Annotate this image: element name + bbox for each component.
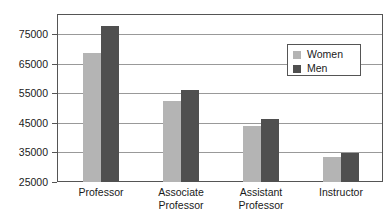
bar-women-assistant-professor (243, 126, 261, 182)
x-label-line2: Professor (239, 199, 284, 212)
legend-item-men: Men (293, 62, 360, 75)
bar-women-instructor (323, 157, 341, 182)
y-tick-label-65000: 65000 (19, 58, 48, 70)
y-tick-label-55000: 55000 (19, 87, 48, 99)
legend-label-women: Women (307, 49, 343, 60)
x-label-line1: Assistant (239, 186, 284, 199)
x-tick-label-instructor: Instructor (319, 186, 363, 199)
legend-item-women: Women (293, 48, 360, 61)
y-tick-label-75000: 75000 (19, 28, 48, 40)
legend-label-men: Men (307, 63, 327, 74)
legend-swatch-women-icon (293, 51, 301, 59)
bar-men-associate-professor (181, 90, 199, 182)
x-tick-label-professor: Professor (79, 186, 124, 199)
y-tick-label-35000: 35000 (19, 146, 48, 158)
x-label-line1: Associate (158, 186, 204, 199)
x-label-line1: Instructor (319, 186, 363, 199)
y-tick-label-45000: 45000 (19, 117, 48, 129)
y-tick-mark (52, 182, 57, 183)
y-axis: 75000 65000 55000 45000 35000 25000 (0, 0, 57, 224)
legend-swatch-men-icon (293, 65, 301, 73)
y-tick-label-25000: 25000 (19, 176, 48, 188)
x-label-line2: Professor (158, 199, 204, 212)
x-label-line1: Professor (79, 186, 124, 199)
bar-series-container (57, 14, 383, 182)
x-axis: Professor Associate Professor Assistant … (57, 186, 383, 224)
bar-men-professor (101, 26, 119, 182)
bar-group-professor (83, 14, 119, 182)
bar-men-assistant-professor (261, 119, 279, 182)
bar-chart: 75000 65000 55000 45000 35000 25000 (0, 0, 388, 224)
bar-group-associate-professor (163, 14, 199, 182)
x-tick-label-associate-professor: Associate Professor (158, 186, 204, 212)
bar-men-instructor (341, 153, 359, 182)
x-tick-label-assistant-professor: Assistant Professor (239, 186, 284, 212)
chart-legend: Women Men (287, 44, 361, 76)
bar-group-assistant-professor (243, 14, 279, 182)
bar-group-instructor (323, 14, 359, 182)
bar-women-professor (83, 53, 101, 182)
bar-women-associate-professor (163, 101, 181, 182)
